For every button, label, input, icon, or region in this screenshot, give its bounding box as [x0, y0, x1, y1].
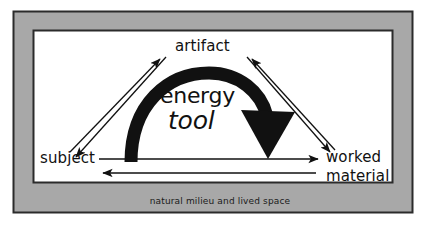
figure-canvas: artifact subject worked material energy … — [0, 0, 440, 230]
worked-material-line-1: worked — [326, 148, 381, 166]
node-label-subject: subject — [40, 151, 95, 167]
center-label-energy: energy — [160, 84, 235, 107]
worked-material-line-2: material — [326, 169, 389, 185]
figure-caption: natural milieu and lived space — [0, 197, 440, 206]
node-label-artifact: artifact — [175, 39, 230, 55]
node-label-worked-material: worked material — [326, 150, 389, 185]
center-label-tool: tool — [168, 108, 215, 134]
